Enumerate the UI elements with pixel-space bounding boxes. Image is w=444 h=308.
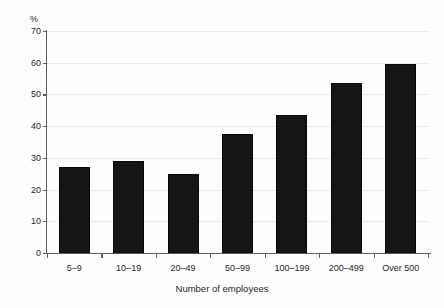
y-axis-tick-mark [43, 31, 47, 32]
y-axis-tick-mark [43, 221, 47, 222]
gridline [47, 126, 428, 127]
x-axis-tick-label: 100–199 [265, 263, 319, 273]
x-axis-tick-mark [428, 253, 429, 258]
y-axis-tick-mark [43, 158, 47, 159]
y-axis-tick-label: 30 [31, 153, 41, 162]
x-axis-tick-mark [210, 253, 211, 258]
x-axis-tick-label: 5–9 [47, 263, 101, 273]
bar [168, 174, 199, 253]
x-axis-tick-mark [47, 253, 48, 258]
x-axis-title: Number of employees [0, 283, 444, 294]
y-axis-tick-label: 20 [31, 185, 41, 194]
y-axis-tick-label: 10 [31, 217, 41, 226]
x-axis-tick-label: Over 500 [374, 263, 428, 273]
gridline [47, 94, 428, 95]
bar [331, 83, 362, 253]
x-axis-tick-mark [101, 253, 102, 258]
x-axis-tick-mark [319, 253, 320, 258]
x-axis-tick-label: 10–19 [101, 263, 155, 273]
y-axis-unit-label: % [30, 14, 38, 24]
x-axis-tick-label: 200–499 [319, 263, 373, 273]
y-axis-tick-label: 0 [36, 249, 41, 258]
x-axis-tick-mark [156, 253, 157, 258]
y-axis-tick-mark [43, 126, 47, 127]
y-axis-tick-mark [43, 63, 47, 64]
x-axis-tick-mark [374, 253, 375, 258]
y-axis-tick-label: 40 [31, 122, 41, 131]
y-axis-tick-mark [43, 94, 47, 95]
bar [113, 161, 144, 253]
bar-chart-figure: % 010203040506070 5–910–1920–4950–99100–… [0, 0, 444, 308]
y-axis-tick-mark [43, 190, 47, 191]
bar [276, 115, 307, 253]
bar [59, 167, 90, 253]
x-axis-tick-label: 20–49 [156, 263, 210, 273]
y-axis-tick-label: 60 [31, 58, 41, 67]
bar [385, 64, 416, 253]
x-axis-tick-mark [265, 253, 266, 258]
y-axis-tick-label: 70 [31, 27, 41, 36]
bar [222, 134, 253, 253]
y-axis-tick-label: 50 [31, 90, 41, 99]
x-axis-tick-label: 50–99 [210, 263, 264, 273]
plot-area: 010203040506070 [47, 31, 428, 253]
gridline [47, 63, 428, 64]
gridline [47, 31, 428, 32]
